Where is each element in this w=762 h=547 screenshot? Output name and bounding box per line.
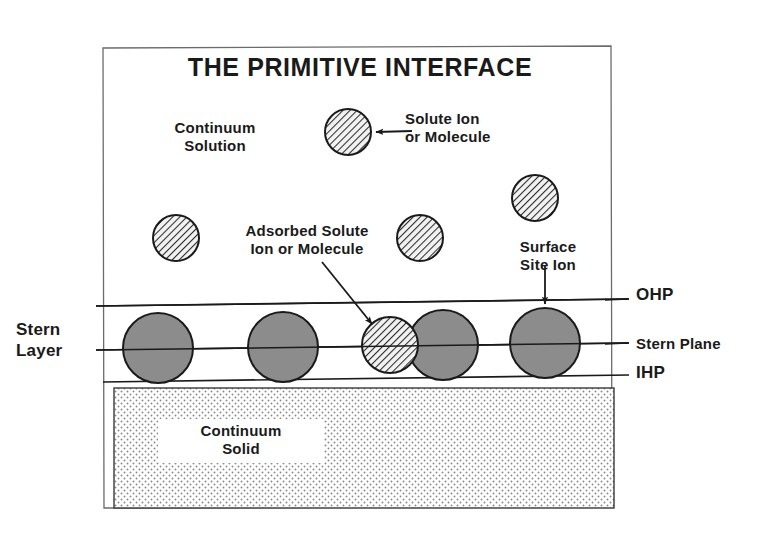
plane-label-ticks [605, 299, 628, 344]
page-title: THE PRIMITIVE INTERFACE [150, 52, 570, 83]
solute-ion[interactable] [325, 109, 371, 155]
ohp-tick [605, 299, 628, 300]
adsorbed-solute-ion[interactable] [362, 317, 418, 373]
surface-site-ion[interactable] [510, 308, 580, 378]
solute-ion-label: Solute Ion or Molecule [405, 110, 585, 147]
solute-ion[interactable] [512, 175, 558, 221]
surface-site-ion-label: Surface Site Ion [496, 238, 600, 275]
continuum-solution-label: Continuum Solution [140, 119, 290, 156]
adsorbed-solute-ion-group [362, 317, 418, 373]
solute-ion[interactable] [153, 215, 199, 261]
ihp-label: IHP [636, 363, 665, 384]
ohp-line-overlay [96, 299, 629, 306]
adsorbed-solute-arrow [322, 262, 372, 324]
adsorbed-solute-label: Adsorbed Solute Ion or Molecule [212, 222, 402, 259]
surface-site-ion-row [123, 308, 580, 383]
ohp-label: OHP [636, 285, 673, 306]
stern-plane-tick [605, 343, 628, 344]
solute-ion[interactable] [397, 215, 443, 261]
stern-layer-label: Stern Layer [16, 320, 116, 361]
surface-site-ion[interactable] [123, 313, 193, 383]
continuum-solid-label: Continuum Solid [158, 419, 324, 463]
stern-plane-label: Stern Plane [636, 335, 721, 353]
